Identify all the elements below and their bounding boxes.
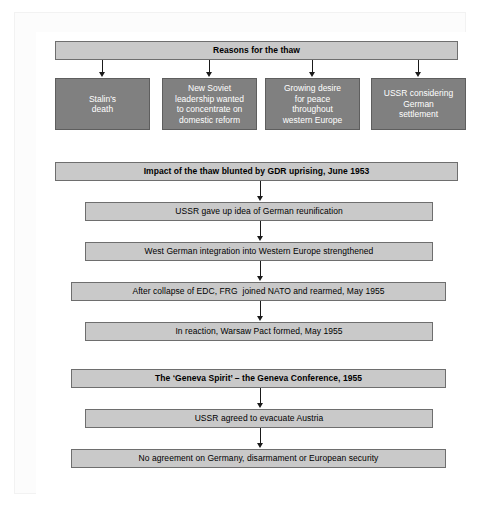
connector-line-geneva-1 [260,388,261,404]
connector-line-impact-2 [260,221,261,237]
diagram-canvas: Reasons for the thaw Stalin's death New … [36,32,474,500]
impact-step-box-2: West German integration into Western Eur… [85,242,433,261]
impact-header-bar: Impact of the thaw blunted by GDR uprisi… [55,162,458,181]
reason-label-2: New Soviet leadership wanted to concentr… [175,83,244,125]
impact-step-box-4: In reaction, Warsaw Pact formed, May 195… [85,322,433,341]
reasons-title-bar: Reasons for the thaw [55,41,458,60]
impact-step-label-2: West German integration into Western Eur… [145,246,374,257]
connector-arrow-reason-4 [415,72,421,77]
impact-step-box-3: After collapse of EDC, FRG joined NATO a… [71,282,446,301]
connector-arrow-impact-2 [257,236,263,241]
connector-arrow-reason-3 [309,72,315,77]
impact-step-label-4: In reaction, Warsaw Pact formed, May 195… [175,326,342,337]
impact-step-box-1: USSR gave up idea of German reunificatio… [85,202,433,221]
impact-step-label-3: After collapse of EDC, FRG joined NATO a… [132,286,384,297]
reason-label-4: USSR considering German settlement [384,88,453,120]
impact-step-label-1: USSR gave up idea of German reunificatio… [175,206,342,217]
geneva-step-box-1: USSR agreed to evacuate Austria [85,409,433,428]
geneva-step-label-1: USSR agreed to evacuate Austria [195,413,324,424]
connector-arrow-impact-4 [257,316,263,321]
reason-box-growing-desire-for-peace: Growing desire for peace throughout west… [265,78,360,130]
connector-arrow-impact-1 [257,196,263,201]
page-frame: Reasons for the thaw Stalin's death New … [14,12,466,494]
connector-line-geneva-2 [260,428,261,444]
reason-label-3: Growing desire for peace throughout west… [283,83,343,125]
connector-line-impact-4 [260,301,261,317]
connector-line-impact-3 [260,261,261,277]
reason-box-new-soviet-leadership: New Soviet leadership wanted to concentr… [162,78,257,130]
geneva-header-label: The ‘Geneva Spirit’ – the Geneva Confere… [155,373,362,384]
reasons-title-label: Reasons for the thaw [213,45,300,56]
flowchart-page: Reasons for the thaw Stalin's death New … [0,0,480,512]
reason-box-ussr-german-settlement: USSR considering German settlement [371,78,466,130]
geneva-header-bar: The ‘Geneva Spirit’ – the Geneva Confere… [71,369,446,388]
connector-arrow-impact-3 [257,276,263,281]
connector-arrow-geneva-1 [257,403,263,408]
connector-arrow-geneva-2 [257,443,263,448]
impact-header-label: Impact of the thaw blunted by GDR uprisi… [144,166,370,177]
geneva-step-box-2: No agreement on Germany, disarmament or … [71,449,446,468]
connector-arrow-reason-1 [99,72,105,77]
geneva-step-label-2: No agreement on Germany, disarmament or … [139,453,379,464]
connector-arrow-reason-2 [206,72,212,77]
connector-line-impact-1 [260,181,261,197]
reason-box-stalins-death: Stalin's death [55,78,150,130]
reason-label-1: Stalin's death [89,94,116,115]
